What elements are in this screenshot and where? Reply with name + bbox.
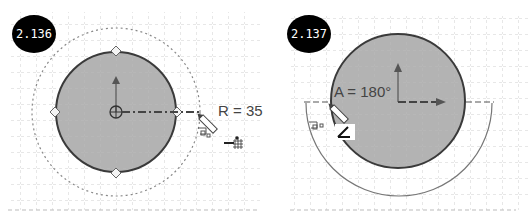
figure-number: 2.137 <box>291 27 327 41</box>
figure-number: 2.136 <box>16 27 52 41</box>
radius-dimension-label: R = 35 <box>218 102 263 119</box>
panel-2-137: A = 180° 2.137 <box>287 14 528 210</box>
panel-2-136: R = 35 2.136 <box>8 12 263 210</box>
sketch-figures: R = 35 2.136 <box>0 0 530 223</box>
angle-dimension-label: A = 180° <box>334 83 391 100</box>
angle-icon <box>335 124 355 140</box>
